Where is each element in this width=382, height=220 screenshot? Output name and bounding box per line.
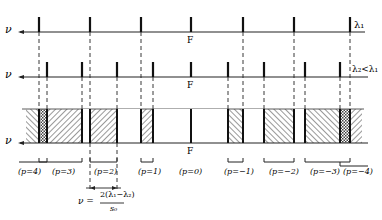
order-label-pm2: (p=−2) — [269, 167, 299, 176]
lambda2-label: λ₂<λ₁ — [352, 64, 378, 74]
order-brackets — [19, 158, 368, 166]
formula-lhs: ν = — [78, 196, 94, 206]
formula-numerator: 2(λ₁−λ₂) — [100, 190, 135, 199]
lambda1-label: λ₁ — [354, 19, 364, 30]
order-label-p1: (p=1) — [138, 167, 161, 176]
order-label-p0: (p=0) — [179, 167, 202, 176]
order-label-p3: (p=3) — [52, 167, 75, 176]
hatched-overlap-regions — [22, 109, 364, 143]
axis-label-bottom: ν — [5, 134, 12, 147]
diffraction-order-diagram — [0, 0, 382, 220]
center-label-middle: F — [187, 80, 193, 90]
axis-arrows — [18, 30, 24, 145]
center-label-bottom: F — [187, 146, 193, 156]
formula-denominator: s₀ — [110, 204, 117, 213]
lambda1-lines — [39, 17, 350, 32]
order-label-pm1: (p=−1) — [224, 167, 254, 176]
center-label-top: F — [187, 35, 193, 45]
lambda2-lines — [47, 62, 340, 77]
order-label-pm3: (p=−3) — [310, 167, 340, 176]
order-label-pm4: (p=−4) — [343, 167, 373, 176]
order-label-p2: (p=2) — [94, 167, 117, 176]
axis-label-middle: ν — [5, 68, 12, 81]
axis-label-top: ν — [5, 23, 12, 36]
order-label-p4: (p=4) — [18, 167, 41, 176]
